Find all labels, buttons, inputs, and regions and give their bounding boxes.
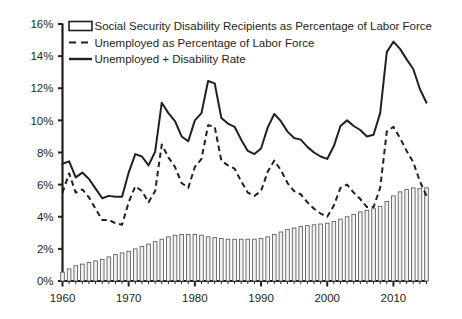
- bar: [418, 189, 422, 281]
- bar: [180, 234, 184, 281]
- bar: [147, 244, 151, 281]
- bar: [133, 249, 137, 281]
- chart-figure: 0%2%4%6%8%10%12%14%16% 19601970198019902…: [0, 0, 462, 319]
- bar: [299, 226, 303, 281]
- bar: [378, 206, 382, 281]
- bar: [365, 210, 369, 281]
- bar: [286, 230, 290, 281]
- bar: [94, 261, 98, 281]
- bar: [352, 214, 356, 281]
- y-axis-tick-label: 12%: [30, 82, 53, 94]
- bar: [186, 234, 190, 281]
- y-axis-tick-label: 6%: [37, 179, 54, 191]
- bar: [173, 235, 177, 281]
- bar: [213, 238, 217, 281]
- bar: [107, 257, 111, 281]
- bar: [325, 223, 329, 281]
- bar: [306, 226, 310, 281]
- y-axis-tick-label: 10%: [30, 115, 53, 127]
- x-axis-tick-label: 2010: [381, 292, 407, 304]
- bar: [140, 246, 144, 281]
- x-axis-tick-label: 1970: [116, 292, 142, 304]
- bar: [120, 253, 124, 281]
- bar: [405, 189, 409, 281]
- bar: [74, 266, 78, 281]
- bar: [153, 242, 157, 281]
- bar: [239, 239, 243, 281]
- legend-item-label: Unemployed + Disability Rate: [95, 53, 246, 65]
- legend-item-label: Social Security Disability Recipients as…: [95, 20, 433, 32]
- legend-item: Unemployed + Disability Rate: [69, 53, 246, 65]
- bar: [411, 188, 415, 281]
- bar: [392, 196, 396, 281]
- x-axis-tick-label: 1980: [182, 292, 208, 304]
- bar: [160, 239, 164, 281]
- bar: [372, 209, 376, 281]
- bar: [167, 237, 171, 281]
- bar: [358, 212, 362, 281]
- y-axis-tick-label: 4%: [37, 211, 54, 223]
- y-axis-tick-label: 8%: [37, 147, 54, 159]
- bar: [233, 239, 237, 281]
- y-axis-tick-label: 14%: [30, 50, 53, 62]
- chart-canvas: 0%2%4%6%8%10%12%14%16% 19601970198019902…: [0, 0, 462, 319]
- bar: [87, 263, 91, 281]
- bar: [279, 232, 283, 281]
- legend-item: Unemployed as Percentage of Labor Force: [69, 37, 314, 49]
- y-axis-tick-label: 16%: [30, 18, 53, 30]
- x-axis-tick-label: 1960: [50, 292, 76, 304]
- bar: [226, 239, 230, 281]
- bar: [206, 237, 210, 281]
- bar: [67, 269, 71, 281]
- bar: [312, 225, 316, 281]
- bar: [220, 238, 224, 281]
- legend-item: Social Security Disability Recipients as…: [69, 20, 432, 32]
- y-axis-tick-label: 2%: [37, 243, 54, 255]
- bar: [345, 217, 349, 281]
- bar: [398, 192, 402, 281]
- bar: [246, 239, 250, 281]
- bar: [272, 234, 276, 281]
- bar: [292, 228, 296, 281]
- x-axis-tick-label: 2000: [314, 292, 340, 304]
- x-axis-tick-label: 1990: [248, 292, 274, 304]
- bar: [385, 201, 389, 281]
- bar: [339, 219, 343, 281]
- y-axis-tick-label: 0%: [37, 275, 54, 287]
- bar: [259, 238, 263, 281]
- legend-swatch-bar-icon: [69, 22, 92, 31]
- bar: [253, 239, 257, 281]
- bar: [100, 259, 104, 281]
- bar: [332, 222, 336, 281]
- bar: [425, 188, 429, 281]
- bar: [81, 264, 85, 281]
- bar: [61, 272, 65, 281]
- bar: [319, 224, 323, 281]
- bar: [193, 234, 197, 281]
- bar: [266, 237, 270, 281]
- bar: [200, 235, 204, 281]
- legend-item-label: Unemployed as Percentage of Labor Force: [95, 37, 315, 49]
- bar: [114, 254, 118, 281]
- bar: [127, 251, 131, 281]
